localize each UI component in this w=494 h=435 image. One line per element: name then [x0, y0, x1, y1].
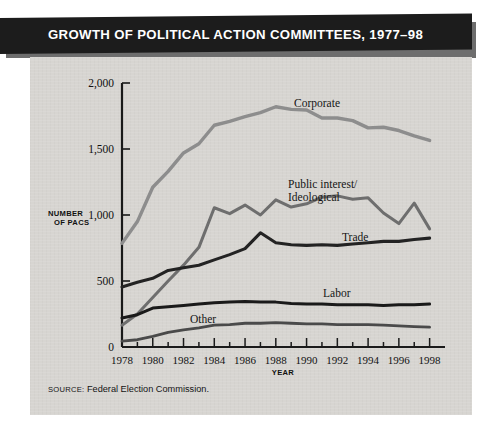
chart-panel: 05001,0001,5002,000 19781980198219841986… — [30, 57, 472, 415]
banner-bar: GROWTH OF POLITICAL ACTION COMMITTEES, 1… — [0, 13, 472, 54]
series-label-public-interest-line2: Ideological — [288, 191, 340, 204]
x-tick-label: 1978 — [111, 354, 134, 366]
x-tick-label: 1980 — [142, 354, 165, 366]
x-tick-label: 1998 — [419, 354, 442, 366]
source-keyword: SOURCE: — [48, 385, 84, 394]
chart-title: GROWTH OF POLITICAL ACTION COMMITTEES, 1… — [48, 26, 423, 41]
series-line-labor — [122, 301, 430, 317]
series-group — [122, 107, 430, 341]
source-text: Federal Election Commission. — [84, 384, 209, 394]
x-tick-label: 1988 — [265, 354, 288, 366]
series-line-corporate — [122, 107, 430, 244]
series-label-labor: Labor — [323, 287, 351, 299]
x-tick-label: 1990 — [296, 354, 319, 366]
y-tick-label: 2,000 — [88, 77, 114, 90]
pac-growth-line-chart: 05001,0001,5002,000 19781980198219841986… — [30, 57, 472, 415]
y-tick-label: 1,500 — [88, 143, 114, 156]
x-tick-label: 1994 — [357, 354, 380, 366]
x-tick-label: 1984 — [203, 354, 226, 366]
series-label-corporate: Corporate — [294, 97, 340, 110]
series-label-trade: Trade — [342, 231, 368, 243]
series-label-public-interest-line1: Public interest/ — [288, 178, 358, 190]
y-axis-title-line2: OF PACS — [54, 218, 89, 227]
title-banner: GROWTH OF POLITICAL ACTION COMMITTEES, 1… — [0, 18, 494, 58]
x-axis-title: YEAR — [272, 368, 295, 377]
y-axis-title-line1: NUMBER — [48, 209, 83, 218]
series-line-trade — [122, 233, 430, 287]
x-tick-label: 1992 — [326, 354, 348, 366]
y-tick-label: 1,000 — [88, 209, 114, 222]
x-tick-label: 1996 — [388, 354, 411, 366]
y-ticks-group: 05001,0001,5002,000 — [88, 77, 130, 353]
y-tick-label: 500 — [97, 275, 115, 287]
x-tick-label: 1986 — [234, 354, 256, 366]
x-tick-label: 1982 — [173, 354, 195, 366]
x-ticks-group: 1978198019821984198619881990199219941996… — [111, 338, 441, 366]
series-label-other: Other — [190, 313, 216, 325]
y-tick-label: 0 — [108, 341, 114, 353]
source-note: SOURCE: Federal Election Commission. — [48, 384, 209, 394]
